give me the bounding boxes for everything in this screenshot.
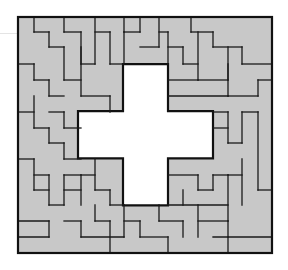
puzzle-board [0,0,288,270]
